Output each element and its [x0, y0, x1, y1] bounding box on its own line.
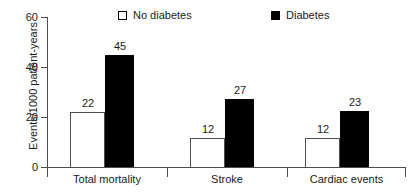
x-axis-category-label: Total mortality [47, 173, 167, 185]
bar-total-mortality-no-diabetes [70, 112, 105, 168]
x-axis-line [47, 167, 406, 168]
legend-label-no-diabetes: No diabetes [133, 10, 192, 21]
y-axis-tick-label: 40 [16, 62, 38, 73]
legend-item-diabetes: Diabetes [271, 10, 329, 21]
bar-value-label: 12 [196, 124, 220, 135]
bar-value-label: 22 [76, 98, 100, 109]
bar-chart: No diabetes Diabetes Events/1000 patient… [0, 0, 417, 196]
bar-stroke-no-diabetes [190, 138, 225, 168]
legend-item-no-diabetes: No diabetes [118, 10, 192, 21]
y-axis-tick [41, 17, 48, 18]
bar-total-mortality-diabetes [105, 55, 134, 168]
bar-value-label: 12 [311, 124, 335, 135]
y-axis-tick-label: 60 [16, 12, 38, 23]
x-axis-category-label: Cardiac events [287, 173, 406, 185]
y-axis-tick-label: 0 [16, 162, 38, 173]
bar-value-label: 45 [108, 41, 132, 52]
bar-value-label: 23 [343, 97, 367, 108]
y-axis-tick-label: 20 [16, 112, 38, 123]
legend-label-diabetes: Diabetes [286, 10, 329, 21]
bar-value-label: 27 [228, 85, 252, 96]
y-axis-line [47, 17, 48, 168]
bar-cardiac-events-no-diabetes [305, 138, 340, 168]
bar-cardiac-events-diabetes [340, 111, 369, 168]
bar-stroke-diabetes [225, 99, 254, 168]
open-square-icon [118, 11, 127, 20]
y-axis-tick [41, 67, 48, 68]
x-axis-category-label: Stroke [167, 173, 287, 185]
filled-square-icon [271, 11, 280, 20]
y-axis-title: Events/1000 patient-years [27, 6, 39, 166]
y-axis-tick [41, 117, 48, 118]
